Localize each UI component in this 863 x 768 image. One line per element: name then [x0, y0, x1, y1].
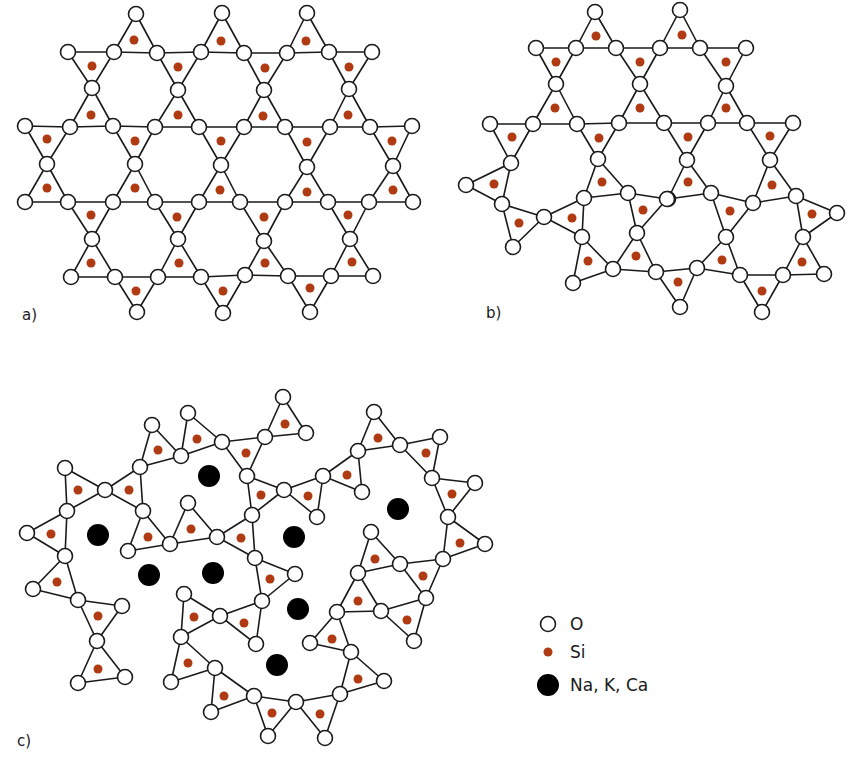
panel-b: b)	[459, 3, 845, 323]
oxygen-atom	[90, 634, 105, 649]
oxygen-atom	[121, 544, 136, 559]
oxygen-atom	[621, 186, 636, 201]
oxygen-atom	[171, 83, 186, 98]
silicon-atom	[87, 259, 96, 268]
oxygen-atom	[18, 195, 33, 210]
silicon-atom	[303, 138, 312, 147]
silicon-atom	[639, 206, 648, 215]
modifier-cation	[138, 564, 160, 586]
oxygen-atom	[746, 196, 761, 211]
silicon-atom	[132, 287, 141, 296]
oxygen-atom	[204, 705, 219, 720]
oxygen-atom	[343, 232, 358, 247]
oxygen-atom	[130, 305, 145, 320]
silicon-atom	[216, 186, 225, 195]
oxygen-atom	[483, 117, 498, 132]
oxygen-atom	[192, 195, 207, 210]
silicon-atom	[403, 616, 412, 625]
silicon-atom	[551, 104, 560, 113]
oxygen-atom	[393, 557, 408, 572]
oxygen-atom	[237, 46, 252, 61]
oxygen-atom	[612, 116, 627, 131]
oxygen-atom	[529, 41, 544, 56]
silicon-atom	[595, 134, 604, 143]
oxygen-atom	[148, 195, 163, 210]
silicon-atom	[187, 525, 196, 534]
silicon-atom	[584, 257, 593, 266]
silicon-atom	[219, 287, 228, 296]
oxygen-atom	[367, 405, 382, 420]
silicon-atom	[242, 449, 251, 458]
oxygen-atom	[129, 7, 144, 22]
silicon-atom	[798, 258, 807, 267]
oxygen-atom	[609, 41, 624, 56]
silicon-atom	[389, 186, 398, 195]
oxygen-atom	[181, 406, 196, 421]
oxygen-atom	[258, 430, 273, 445]
silicon-atom	[144, 533, 153, 542]
oxygen-atom	[570, 117, 585, 132]
silicon-atom	[240, 619, 249, 628]
silicon-atom	[302, 37, 311, 46]
silicon-atom	[388, 137, 397, 146]
oxygen-atom	[20, 526, 35, 541]
panel-b-oxygen-atoms	[459, 3, 845, 320]
panel-c-bonds	[27, 397, 485, 738]
oxygen-atom	[330, 605, 345, 620]
oxygen-atom	[719, 79, 734, 94]
oxygen-atom	[673, 3, 688, 18]
oxygen-atom	[150, 46, 165, 61]
oxygen-atom	[257, 234, 272, 249]
silicon-atom	[674, 278, 683, 287]
oxygen-atom	[233, 195, 248, 210]
oxygen-atom	[351, 444, 366, 459]
panel-c: c)	[17, 390, 493, 751]
panel-a: a)	[18, 6, 421, 325]
legend-item-silicon: Si	[544, 642, 586, 662]
silicon-icon	[544, 648, 553, 657]
oxygen-atom	[344, 645, 359, 660]
oxygen-atom	[248, 551, 263, 566]
silicon-atom	[684, 133, 693, 142]
oxygen-atom	[71, 676, 86, 691]
silicon-atom	[87, 211, 96, 220]
silicon-atom	[184, 659, 193, 668]
oxygen-atom	[194, 45, 209, 60]
oxygen-atom	[174, 630, 189, 645]
oxygen-atom	[657, 116, 672, 131]
oxygen-atom	[58, 549, 73, 564]
oxygen-atom	[386, 159, 401, 174]
oxygen-atom	[280, 46, 295, 61]
oxygen-atom	[133, 460, 148, 475]
cation-icon	[537, 674, 559, 696]
silicon-atom	[508, 133, 517, 142]
oxygen-atom	[364, 525, 379, 540]
oxygen-atom	[194, 270, 209, 285]
silicon-atom	[598, 178, 607, 187]
oxygen-atom	[506, 240, 521, 255]
oxygen-atom	[277, 483, 292, 498]
oxygen-atom	[61, 45, 76, 60]
oxygen-atom	[289, 695, 304, 710]
oxygen-atom	[257, 83, 272, 98]
oxygen-atom	[419, 591, 434, 606]
silicon-atom	[154, 446, 163, 455]
oxygen-atom	[115, 599, 130, 614]
oxygen-atom	[322, 45, 337, 60]
oxygen-atom	[704, 186, 719, 201]
oxygen-atom	[701, 116, 716, 131]
silicon-atom	[722, 104, 731, 113]
oxygen-atom	[830, 206, 845, 221]
silicon-atom	[422, 449, 431, 458]
silicon-atom	[87, 111, 96, 120]
silicon-atom	[684, 178, 693, 187]
silicon-atom	[718, 256, 727, 265]
oxygen-atom	[653, 41, 668, 56]
oxygen-atom	[374, 604, 389, 619]
oxygen-atom	[278, 195, 293, 210]
oxygen-atom	[318, 731, 333, 746]
oxygen-atom	[459, 178, 474, 193]
legend-item-cation: Na, K, Ca	[537, 674, 648, 696]
modifier-cation	[202, 562, 224, 584]
oxygen-atom	[181, 496, 196, 511]
